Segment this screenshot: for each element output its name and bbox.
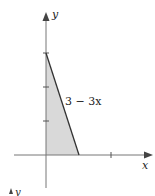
- x-axis-arrow-icon: [144, 152, 153, 159]
- next-figure-y-arrow-icon: [9, 188, 13, 194]
- y-axis-label: y: [52, 9, 58, 20]
- y-axis-arrow-icon: [43, 12, 50, 21]
- next-figure-y-label: y: [15, 187, 21, 196]
- x-axis-label: x: [142, 160, 148, 171]
- curve-label: 3 − 3x: [65, 96, 101, 107]
